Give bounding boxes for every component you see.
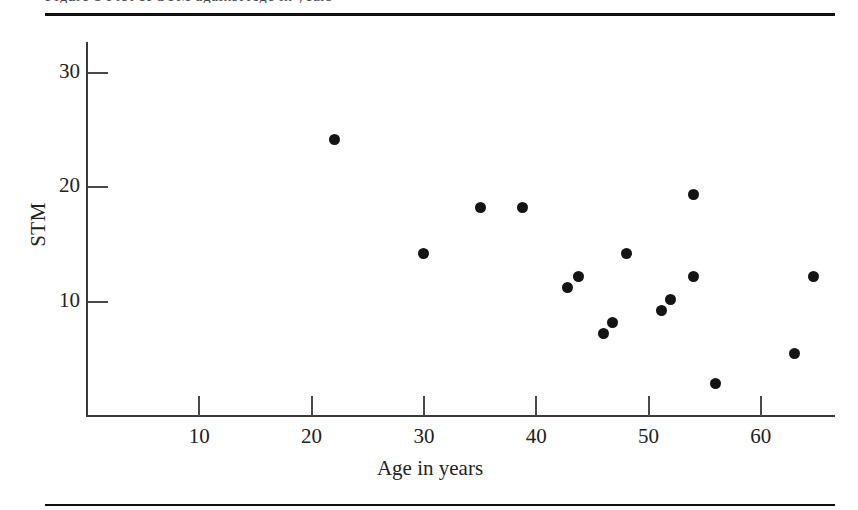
figure-container: Figure 1 Plot of STM against Age in year… bbox=[0, 0, 858, 510]
data-point bbox=[665, 294, 676, 305]
data-point bbox=[710, 378, 721, 389]
data-point bbox=[656, 305, 667, 316]
x-tick-20 bbox=[311, 396, 313, 416]
data-point bbox=[418, 248, 429, 259]
y-tick-30 bbox=[88, 72, 108, 74]
x-tick-label-50: 50 bbox=[619, 424, 679, 449]
y-axis-line bbox=[86, 42, 88, 417]
data-point bbox=[329, 134, 340, 145]
data-point bbox=[573, 271, 584, 282]
y-tick-label-30: 30 bbox=[36, 59, 80, 84]
x-tick-label-20: 20 bbox=[282, 424, 342, 449]
x-tick-10 bbox=[198, 396, 200, 416]
data-point bbox=[688, 271, 699, 282]
x-tick-label-10: 10 bbox=[169, 424, 229, 449]
y-axis-title: STM bbox=[26, 155, 51, 295]
data-point bbox=[598, 328, 609, 339]
bottom-horizontal-rule bbox=[45, 504, 835, 506]
x-tick-40 bbox=[535, 396, 537, 416]
x-axis-title: Age in years bbox=[330, 456, 530, 481]
data-point bbox=[475, 202, 486, 213]
x-tick-label-40: 40 bbox=[506, 424, 566, 449]
y-tick-10 bbox=[88, 301, 108, 303]
y-tick-20 bbox=[88, 186, 108, 188]
data-point bbox=[607, 317, 618, 328]
data-point bbox=[789, 348, 800, 359]
x-tick-label-30: 30 bbox=[394, 424, 454, 449]
data-point bbox=[688, 189, 699, 200]
data-point bbox=[621, 248, 632, 259]
data-point bbox=[808, 271, 819, 282]
x-tick-60 bbox=[760, 396, 762, 416]
data-point bbox=[562, 282, 573, 293]
scatter-plot: 102030 102030405060 STM Age in years bbox=[0, 0, 858, 510]
x-tick-label-60: 60 bbox=[731, 424, 791, 449]
x-tick-50 bbox=[648, 396, 650, 416]
data-point bbox=[517, 202, 528, 213]
x-tick-30 bbox=[423, 396, 425, 416]
